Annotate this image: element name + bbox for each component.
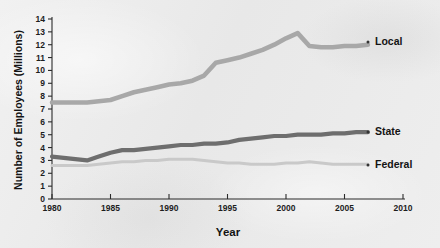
y-tick-label: 11 (36, 53, 45, 63)
x-tick-label: 1985 (101, 203, 120, 213)
line-chart: Number of Employees (Millions) Year 0123… (0, 0, 440, 248)
series-line-federal (52, 159, 368, 165)
y-tick-label: 10 (36, 65, 46, 75)
chart-figure: Number of Employees (Millions) Year 0123… (0, 0, 440, 248)
y-axis-ticks: 01234567891011121314 (36, 14, 52, 204)
x-tick-label: 2005 (335, 203, 354, 213)
series-line-state (52, 132, 368, 160)
x-tick-label: 1990 (160, 203, 179, 213)
y-tick-label: 9 (40, 78, 45, 88)
y-tick-label: 14 (36, 14, 46, 24)
series-label-layer: LocalStateFederal (367, 35, 413, 170)
x-tick-label: 2000 (277, 203, 296, 213)
x-tick-label: 1980 (43, 203, 62, 213)
y-tick-label: 2 (40, 168, 45, 178)
y-tick-label: 6 (40, 117, 45, 127)
x-axis-ticks: 1980198519901995200020052010 (43, 194, 413, 213)
y-tick-label: 12 (36, 40, 46, 50)
y-tick-label: 7 (40, 104, 45, 114)
y-axis-title: Number of Employees (Millions) (12, 30, 24, 190)
series-label-federal: Federal (375, 158, 412, 170)
x-tick-label: 1995 (218, 203, 237, 213)
y-tick-label: 8 (40, 91, 45, 101)
y-tick-label: 13 (36, 27, 46, 37)
y-tick-label: 1 (40, 181, 45, 191)
series-label-dot-federal (367, 164, 370, 167)
series-label-dot-state (367, 131, 370, 134)
series-line-local (52, 33, 368, 102)
y-tick-label: 5 (40, 130, 45, 140)
series-label-dot-local (367, 41, 370, 44)
y-tick-label: 4 (40, 143, 45, 153)
series-label-state: State (375, 125, 401, 137)
x-tick-label: 2010 (394, 203, 413, 213)
x-axis-title: Year (216, 226, 241, 238)
data-series-layer (52, 33, 368, 165)
series-label-local: Local (375, 35, 403, 47)
y-tick-label: 3 (40, 155, 45, 165)
